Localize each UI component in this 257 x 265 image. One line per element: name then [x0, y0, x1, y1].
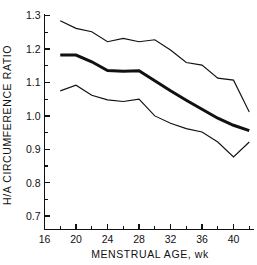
x-tick-label: 28: [133, 233, 145, 245]
line-chart: 0.70.80.91.01.11.21.3 16202428323640 MEN…: [0, 0, 257, 265]
x-tick-label: 32: [165, 233, 177, 245]
y-axis-ticks: [45, 16, 51, 216]
x-tick-label: 16: [39, 233, 51, 245]
chart-series-group: [60, 21, 249, 157]
y-tick-label: 0.9: [26, 143, 41, 155]
y-tick-label: 1.2: [26, 43, 41, 55]
x-tick-label: 40: [228, 233, 240, 245]
chart-container: 0.70.80.91.01.11.21.3 16202428323640 MEN…: [0, 0, 257, 265]
series-line-upper-percentile: [60, 21, 249, 112]
x-tick-label: 24: [102, 233, 114, 245]
x-tick-label: 20: [70, 233, 82, 245]
x-axis-tick-labels: 16202428323640: [39, 233, 240, 245]
y-tick-label: 1.0: [26, 110, 41, 122]
x-tick-label: 36: [196, 233, 208, 245]
y-tick-label: 0.7: [26, 210, 41, 222]
y-axis-title: H/A CIRCUMFERENCE RATIO: [1, 45, 13, 205]
y-tick-label: 1.1: [26, 76, 41, 88]
y-tick-label: 1.3: [26, 9, 41, 21]
y-axis-tick-labels: 0.70.80.91.01.11.21.3: [26, 9, 41, 221]
x-axis-ticks: [45, 224, 250, 230]
y-tick-label: 0.8: [26, 177, 41, 189]
x-axis-title: MENSTRUAL AGE, wk: [91, 248, 209, 260]
